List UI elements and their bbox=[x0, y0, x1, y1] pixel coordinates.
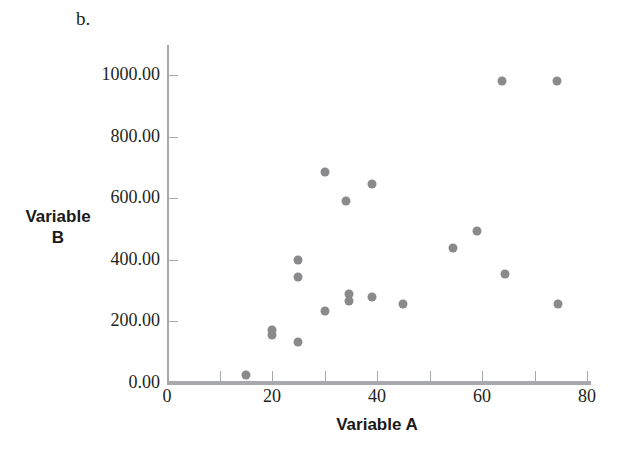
data-point bbox=[294, 255, 303, 264]
data-point bbox=[501, 269, 510, 278]
data-point bbox=[320, 168, 329, 177]
data-point bbox=[367, 180, 376, 189]
data-point bbox=[554, 300, 563, 309]
x-tick-label: 60 bbox=[452, 386, 512, 407]
y-tick-label: 400.00 bbox=[55, 249, 160, 270]
x-tick-label: 40 bbox=[347, 386, 407, 407]
data-point bbox=[449, 244, 458, 253]
plot-area bbox=[167, 45, 591, 383]
data-point bbox=[367, 293, 376, 302]
y-axis-title: Variable B bbox=[6, 206, 110, 248]
x-axis-title: Variable A bbox=[167, 415, 587, 435]
data-point bbox=[472, 227, 481, 236]
scatter-plot-figure: b. Variable B Variable A 0.00200.00400.0… bbox=[0, 0, 623, 450]
data-point bbox=[399, 299, 408, 308]
x-tick-label: 0 bbox=[137, 386, 197, 407]
x-tick-label: 80 bbox=[557, 386, 617, 407]
y-axis-title-line2: B bbox=[6, 227, 110, 248]
y-tick-label: 1000.00 bbox=[55, 64, 160, 85]
data-point bbox=[345, 296, 354, 305]
y-tick-label: 800.00 bbox=[55, 126, 160, 147]
data-point bbox=[241, 371, 250, 380]
data-point bbox=[341, 196, 350, 205]
panel-letter-label: b. bbox=[76, 8, 90, 30]
data-point bbox=[294, 272, 303, 281]
data-point bbox=[268, 331, 277, 340]
data-point bbox=[497, 77, 506, 86]
data-point bbox=[320, 307, 329, 316]
y-tick-label: 600.00 bbox=[55, 187, 160, 208]
x-tick-label: 20 bbox=[242, 386, 302, 407]
data-point bbox=[294, 338, 303, 347]
y-tick-label: 200.00 bbox=[55, 310, 160, 331]
y-axis-title-line1: Variable bbox=[6, 206, 110, 227]
data-point bbox=[553, 77, 562, 86]
